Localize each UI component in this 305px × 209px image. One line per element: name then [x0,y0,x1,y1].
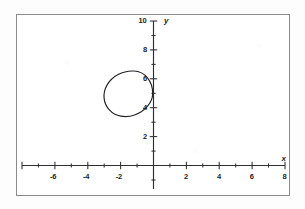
x-ticklabel-6: 6 [250,173,254,181]
x-ticklabel--6: -6 [50,173,56,181]
x-ticklabel-4: 4 [217,173,221,181]
plot-canvas [0,0,305,209]
figure-container: -6 -4 -2 2 4 6 8 2 4 6 8 10 y x [0,0,305,209]
x-ticklabel--2: -2 [116,173,122,181]
y-ticklabel-2: 2 [143,133,147,141]
x-axis-label: x [282,155,286,163]
x-ticklabel-2: 2 [184,173,188,181]
y-ticklabel-10: 10 [139,17,147,25]
x-ticklabel-8: 8 [283,173,287,181]
y-axis-group [150,21,157,189]
y-ticklabel-4: 4 [143,104,147,112]
y-ticklabel-8: 8 [143,46,147,54]
y-axis-label: y [164,17,168,25]
y-ticklabel-6: 6 [143,75,147,83]
x-ticklabel--4: -4 [83,173,89,181]
